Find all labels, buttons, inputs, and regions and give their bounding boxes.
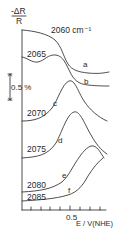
x-axis-label: E / V(NHE)	[76, 219, 114, 228]
x-ticks	[31, 206, 100, 210]
curve-label-2080: 2080	[27, 180, 46, 190]
curve-letter-b: b	[84, 77, 89, 86]
y-label-denominator: R	[16, 16, 22, 26]
curve-letter-c: c	[53, 99, 57, 108]
y-label-numerator: -ΔR	[11, 6, 26, 16]
scale-label: 0.5 %	[11, 83, 31, 92]
spectra-chart: -ΔR R 0.5 % 2060 cm⁻¹ 2065 2070 2075 208…	[0, 0, 124, 233]
curve-label-2070: 2070	[27, 108, 46, 118]
curve-letter-e: e	[62, 171, 67, 180]
curve-label-2065: 2065	[27, 49, 46, 59]
curve-label-2085: 2085	[27, 192, 46, 202]
curve-label-2060: 2060 cm⁻¹	[51, 25, 92, 35]
curve-letter-a: a	[83, 60, 88, 69]
curve-label-2075: 2075	[27, 144, 46, 154]
curve-letter-d: d	[58, 136, 62, 145]
